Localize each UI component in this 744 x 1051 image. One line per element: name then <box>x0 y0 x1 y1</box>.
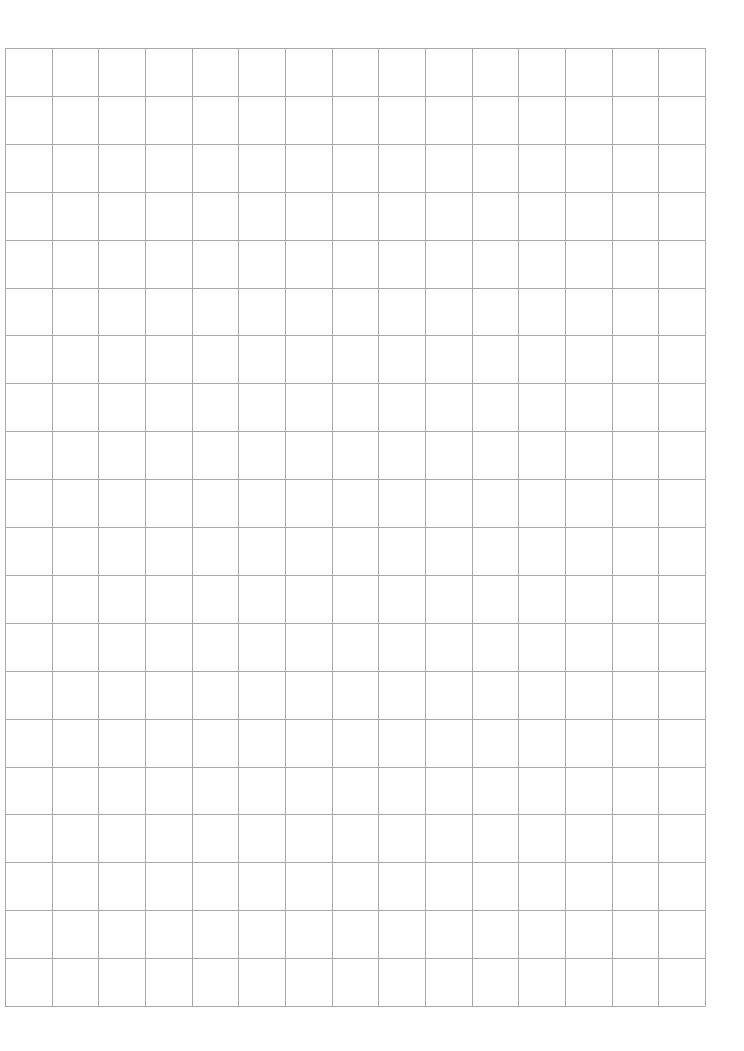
grid-paper <box>5 48 705 1006</box>
grid-lines <box>5 48 706 1007</box>
